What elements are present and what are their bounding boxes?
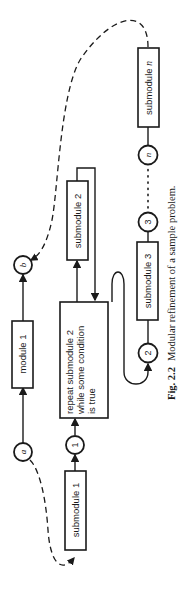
- submodule-2-box: submodule 2: [67, 181, 88, 260]
- submodule-n-box: submodule n: [138, 48, 159, 127]
- svg-text:n: n: [143, 152, 153, 157]
- svg-text:submodule 3: submodule 3: [142, 254, 153, 308]
- dashed-return-path-n-to-b: [31, 20, 148, 260]
- connector-b: b: [14, 256, 32, 274]
- connector-a: a: [14, 443, 32, 461]
- submodule-1-box: submodule 1: [65, 471, 86, 550]
- connector-2: 2: [139, 344, 158, 363]
- module-1-box: module 1: [12, 321, 33, 388]
- svg-text:b: b: [18, 262, 28, 267]
- svg-text:3: 3: [143, 219, 153, 224]
- svg-text:1: 1: [70, 442, 80, 447]
- connector-1: 1: [66, 436, 84, 454]
- svg-text:2: 2: [143, 350, 153, 355]
- repeat-loop-box: repeat submodule 2 while some condition …: [60, 302, 108, 418]
- connector-3: 3: [139, 213, 158, 232]
- figure-caption: Fig. 2.2Modular refinement of a sample p…: [166, 186, 177, 401]
- svg-text:submodule 1: submodule 1: [70, 483, 81, 537]
- svg-text:a: a: [18, 449, 28, 454]
- module-1-label: module 1: [17, 334, 28, 373]
- submodule-3-box: submodule 3: [137, 242, 158, 320]
- connector-n: n: [139, 146, 158, 165]
- diagram-canvas: module 1 b a submodule 1 1 repeat submod…: [0, 0, 181, 601]
- svg-text:submodule 2: submodule 2: [72, 194, 83, 248]
- svg-text:submodule n: submodule n: [143, 61, 154, 115]
